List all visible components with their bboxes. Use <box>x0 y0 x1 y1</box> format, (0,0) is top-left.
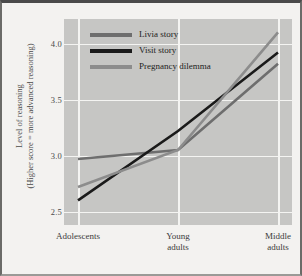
legend-item: Visit story <box>90 45 211 56</box>
series-line <box>78 64 278 159</box>
legend-item: Livia story <box>90 29 211 40</box>
x-axis-tick-label: Adolescents <box>56 231 100 242</box>
chart-figure: Level of reasoning (Higher score = more … <box>0 0 302 276</box>
y-axis-tick-label: 3.0 <box>40 151 62 161</box>
legend-label: Livia story <box>139 29 178 40</box>
legend-color-swatch <box>90 65 132 69</box>
legend-label: Pregnancy dilemma <box>139 61 211 72</box>
y-axis-tick-label: 2.5 <box>40 207 62 217</box>
y-axis-title: Level of reasoning (Higher score = more … <box>8 3 42 229</box>
y-axis-title-line-1: Level of reasoning <box>14 43 25 188</box>
x-axis-tick-label-line: adults <box>166 242 190 253</box>
legend-item: Pregnancy dilemma <box>90 61 211 72</box>
x-axis-tick-label: Middleadults <box>265 231 291 253</box>
legend-label: Visit story <box>139 45 176 56</box>
x-axis-tick-labels: AdolescentsYoungadultsMiddleadults <box>64 231 292 271</box>
x-axis-tick-label: Youngadults <box>166 231 190 253</box>
y-axis-tick-label: 4.0 <box>40 39 62 49</box>
y-axis-title-line-2: (Higher score = more advanced reasoning) <box>25 43 36 188</box>
x-axis-tick-label-line: Middle <box>265 231 291 242</box>
legend-color-swatch <box>90 33 132 37</box>
legend-color-swatch <box>90 49 132 53</box>
x-axis-tick-label-line: adults <box>265 242 291 253</box>
legend: Livia storyVisit storyPregnancy dilemma <box>90 29 211 72</box>
series-line <box>78 53 278 201</box>
x-axis-tick-label-line: Adolescents <box>56 231 100 242</box>
x-axis-tick-label-line: Young <box>166 231 190 242</box>
y-axis-tick-label: 3.5 <box>40 95 62 105</box>
